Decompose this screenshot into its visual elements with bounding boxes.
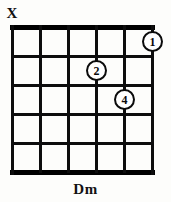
chord-diagram-page: X 1 2 4 Dm (0, 0, 171, 202)
fret-line-2 (11, 84, 154, 87)
fretboard-grid: 1 2 4 (0, 0, 171, 180)
finger-dot-2: 2 (86, 60, 107, 81)
string-line-4 (67, 25, 70, 173)
fret-line-5 (10, 170, 155, 175)
nut-line (10, 25, 155, 30)
finger-dot-4: 4 (114, 89, 135, 110)
chord-name-label: Dm (0, 180, 171, 198)
finger-dot-1: 1 (142, 31, 163, 52)
string-line-5 (39, 25, 42, 173)
fret-line-1 (11, 55, 154, 58)
string-line-6 (11, 25, 14, 175)
string-line-3 (95, 25, 98, 173)
fret-line-4 (11, 142, 154, 145)
fret-line-3 (11, 113, 154, 116)
